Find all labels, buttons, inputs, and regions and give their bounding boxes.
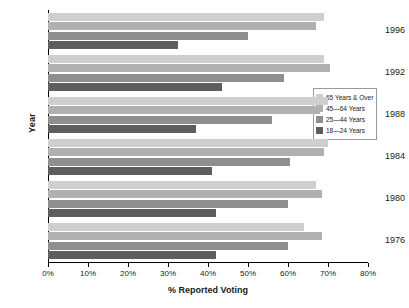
bar (48, 97, 328, 105)
x-tick-mark (288, 263, 289, 267)
x-tick-mark (368, 263, 369, 267)
bar (48, 181, 316, 189)
y-tick-label: 1988 (365, 109, 405, 119)
y-axis-title: Year (27, 93, 37, 153)
y-tick-label: 1976 (365, 235, 405, 245)
x-tick-mark (208, 263, 209, 267)
bar (48, 55, 324, 63)
bar (48, 74, 284, 82)
x-tick-label: 0% (28, 269, 68, 278)
bar (48, 251, 216, 259)
bar (48, 22, 316, 30)
x-tick-mark (168, 263, 169, 267)
year-group (48, 178, 368, 220)
bar (48, 83, 222, 91)
x-tick-label: 70% (308, 269, 348, 278)
y-tick-label: 1992 (365, 67, 405, 77)
bar (48, 148, 324, 156)
bar (48, 200, 288, 208)
x-tick-label: 50% (228, 269, 268, 278)
bar (48, 209, 216, 217)
year-group (48, 136, 368, 178)
bar (48, 13, 324, 21)
x-tick-mark (48, 263, 49, 267)
year-group (48, 220, 368, 262)
bar (48, 139, 328, 147)
year-group (48, 52, 368, 94)
bar (48, 64, 330, 72)
x-tick-mark (128, 263, 129, 267)
x-tick-mark (88, 263, 89, 267)
bar (48, 167, 212, 175)
bar (48, 190, 322, 198)
x-tick-label: 60% (268, 269, 308, 278)
bar (48, 242, 288, 250)
y-tick-label: 1984 (365, 151, 405, 161)
x-tick-mark (328, 263, 329, 267)
x-tick-label: 30% (148, 269, 188, 278)
x-tick-mark (248, 263, 249, 267)
bar (48, 116, 272, 124)
x-tick-label: 10% (68, 269, 108, 278)
bar-chart: Year % Reported Voting 65 Years & Over45… (0, 0, 409, 308)
bar (48, 223, 304, 231)
bar (48, 125, 196, 133)
x-tick-label: 20% (108, 269, 148, 278)
bar (48, 32, 248, 40)
bar (48, 41, 178, 49)
year-group (48, 10, 368, 52)
bar (48, 158, 290, 166)
y-tick-label: 1996 (365, 25, 405, 35)
x-axis-title: % Reported Voting (48, 285, 368, 295)
year-group (48, 94, 368, 136)
x-tick-label: 40% (188, 269, 228, 278)
bar (48, 106, 320, 114)
y-tick-label: 1980 (365, 193, 405, 203)
x-tick-label: 80% (348, 269, 388, 278)
bar (48, 232, 322, 240)
